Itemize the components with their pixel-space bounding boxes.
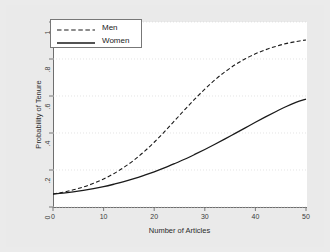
chart-figure: 1 .8 .6 .4 .2 0 0 10 20 30 40 50 Number …	[0, 0, 330, 252]
x-tick-label: 30	[193, 213, 217, 220]
legend-swatch-dashed	[56, 22, 96, 34]
x-axis-title: Number of Articles	[53, 226, 306, 235]
legend: Men Women	[50, 19, 142, 48]
y-tick-label: .8	[44, 59, 51, 81]
x-tick-label: 0	[41, 213, 65, 220]
x-tick-label: 10	[92, 213, 116, 220]
y-tick-label: .2	[44, 170, 51, 192]
y-tick-label: .6	[44, 96, 51, 118]
y-axis-title: Probability of Tenure	[34, 22, 43, 207]
legend-entry-women: Women	[51, 34, 141, 47]
legend-label-men: Men	[102, 23, 118, 32]
x-tick-label: 20	[142, 213, 166, 220]
x-tick-label: 50	[294, 213, 318, 220]
legend-swatch-solid	[56, 35, 96, 47]
legend-label-women: Women	[102, 36, 129, 45]
plot-area	[53, 22, 307, 208]
x-tick-label: 40	[243, 213, 267, 220]
legend-entry-men: Men	[51, 21, 141, 34]
y-tick-label: .4	[44, 133, 51, 155]
